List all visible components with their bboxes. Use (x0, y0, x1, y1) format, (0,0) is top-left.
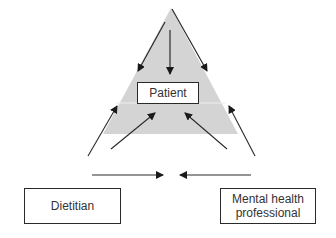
patient-node: Patient (137, 82, 199, 104)
mental-health-node: Mental health professional (220, 188, 316, 224)
dietitian-label: Dietitian (51, 199, 94, 213)
patient-label: Patient (149, 86, 186, 100)
dietitian-node: Dietitian (24, 188, 121, 224)
mental-health-label: Mental health professional (225, 192, 311, 220)
